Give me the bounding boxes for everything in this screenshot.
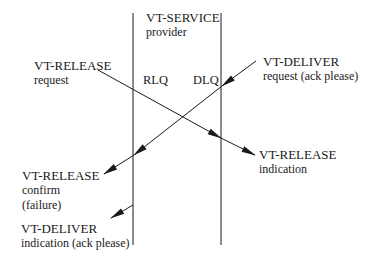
release-confirm-arrow	[104, 155, 134, 174]
release-request-primitive: VT-RELEASE	[34, 58, 112, 73]
deliver-indication-type: indication (ack please)	[21, 236, 130, 251]
release-confirm-result: (failure)	[22, 198, 100, 213]
release-indication-primitive: VT-RELEASE	[259, 147, 337, 162]
deliver-crossing-arrow	[134, 86, 222, 155]
release-confirm-label: VT-RELEASE confirm (failure)	[22, 168, 100, 213]
deliver-request-arrow	[222, 61, 256, 86]
release-request-type: request	[34, 73, 112, 88]
provider-title: VT-SERVICE	[146, 10, 220, 25]
release-confirm-type: confirm	[22, 183, 100, 198]
provider-subtitle: provider	[146, 25, 220, 40]
deliver-indication-primitive: VT-DELIVER	[21, 221, 130, 236]
release-indication-label: VT-RELEASE indication	[259, 147, 337, 177]
deliver-indication-label: VT-DELIVER indication (ack please)	[21, 221, 130, 251]
release-confirm-primitive: VT-RELEASE	[22, 168, 100, 183]
release-indication-type: indication	[259, 162, 337, 177]
vt-service-sequence-diagram: VT-SERVICE provider RLQ DLQ VT-RELEASE r…	[0, 0, 367, 255]
deliver-indication-arrow	[111, 205, 133, 218]
release-request-label: VT-RELEASE request	[34, 58, 112, 88]
deliver-request-primitive: VT-DELIVER	[263, 54, 358, 69]
release-indication-arrow	[221, 138, 255, 155]
deliver-request-label: VT-DELIVER request (ack please)	[263, 54, 358, 84]
rlq-label: RLQ	[143, 73, 168, 88]
deliver-request-type: request (ack please)	[263, 69, 358, 84]
provider-label: VT-SERVICE provider	[146, 10, 220, 40]
dlq-label: DLQ	[193, 73, 219, 88]
